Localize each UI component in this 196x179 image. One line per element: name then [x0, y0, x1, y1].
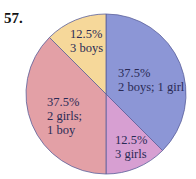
pie-chart: 37.5% 2 boys; 1 girl 12.5% 3 girls 37.5%…: [0, 0, 196, 179]
label-slice-1: 12.5% 3 girls: [115, 133, 150, 161]
label-slice-3: 12.5% 3 boys: [70, 27, 105, 55]
